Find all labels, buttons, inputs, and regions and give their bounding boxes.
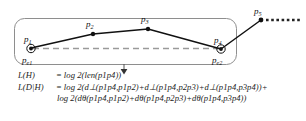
formula-rhs-ldh: log 2(d⊥(p1p4,p1p2)+d⊥(p1p4,p2p3)+d⊥(p1p… (64, 82, 268, 92)
point-label-p4: p4 (213, 35, 222, 46)
formula-rhs-lh: log 2(len(p1p4)) (64, 70, 121, 80)
mdl-formula-block: L(H)=log 2(len(p1p4)) L(D|H)=log 2(d⊥(p1… (18, 70, 303, 105)
formula-lhs-ldh: L(D|H) (18, 82, 56, 94)
point-label-p2: p2 (85, 19, 94, 30)
trajectory-partition-box (15, 19, 237, 65)
point-marker-p2 (91, 32, 95, 36)
point-label-p1: p1 (23, 34, 32, 45)
point-label-p5: p5 (253, 6, 262, 17)
formula-lhs-lh: L(H) (18, 70, 56, 82)
figure-root: p1 p2 p3 p4 p5 pe1 pe2 L(H)=log 2(len(p1… (0, 0, 306, 121)
point-marker-p5 (259, 18, 264, 23)
formula-eq-ldh: = (56, 82, 64, 92)
endpoint-label-pe1: pe1 (21, 55, 32, 66)
formula-eq-lh: = (56, 70, 64, 80)
formula-line-lh: L(H)=log 2(len(p1p4)) (18, 70, 303, 82)
formula-rhs-ldh-cont: log 2(dθ(p1p4,p1p2)+dθ(p1p4,p2p3)+dθ(p1p… (57, 93, 246, 103)
formula-line-ldh-cont: log 2(dθ(p1p4,p1p2)+dθ(p1p4,p2p3)+dθ(p1p… (18, 93, 303, 105)
formula-line-ldh: L(D|H)=log 2(d⊥(p1p4,p1p2)+d⊥(p1p4,p2p3)… (18, 82, 303, 94)
point-label-p3: p3 (140, 14, 149, 25)
endpoint-label-pe2: pe2 (211, 55, 222, 66)
point-marker-p3 (146, 27, 150, 31)
